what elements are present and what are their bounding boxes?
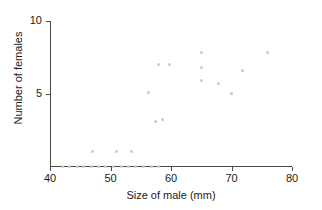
data-point [147,91,150,94]
x-tick-label: 40 [35,173,65,184]
x-axis-title: Size of male (mm) [50,189,292,201]
y-tick-mark [46,21,50,22]
x-tick-mark [50,167,51,171]
data-point [200,51,203,54]
x-tick-label: 80 [277,173,307,184]
data-point [161,118,164,121]
x-tick-mark [292,167,293,171]
data-point [230,92,233,95]
y-axis-line [50,21,51,167]
y-tick-mark [46,94,50,95]
data-point [115,150,118,153]
y-axis-title: Number of females [12,8,24,148]
x-tick-mark [232,167,233,171]
x-tick-mark [111,167,112,171]
data-point [130,150,133,153]
data-point [266,51,269,54]
data-point [91,150,94,153]
data-point [241,69,244,72]
x-tick-label: 70 [217,173,247,184]
data-point [200,79,203,82]
x-tick-mark [171,167,172,171]
x-tick-label: 50 [96,173,126,184]
x-tick-label: 60 [156,173,186,184]
data-point [200,66,203,69]
data-point [217,82,220,85]
scatter-plot-figure: 4050607080510 Size of male (mm) Number o… [0,0,322,210]
data-point [157,63,160,66]
data-point [168,63,171,66]
data-point [154,120,157,123]
